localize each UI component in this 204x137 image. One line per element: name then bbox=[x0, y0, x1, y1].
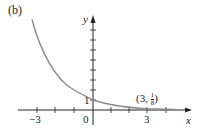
x-tick-label-neg3: −3 bbox=[29, 114, 41, 125]
x-axis-arrow-icon bbox=[185, 108, 192, 113]
annotation-open: (3, bbox=[136, 92, 151, 104]
y-axis-label: y bbox=[83, 14, 88, 25]
x-tick-label-0: 0 bbox=[83, 114, 89, 125]
annotation-close: ) bbox=[154, 92, 158, 104]
point-annotation: (3, 18) bbox=[136, 92, 158, 107]
x-axis-label: x bbox=[186, 115, 191, 126]
panel-label: (b) bbox=[8, 4, 22, 16]
x-tick-label-3: 3 bbox=[144, 114, 150, 125]
y-tick-label-1: 1 bbox=[84, 95, 90, 106]
y-axis-arrow-icon bbox=[91, 15, 96, 23]
